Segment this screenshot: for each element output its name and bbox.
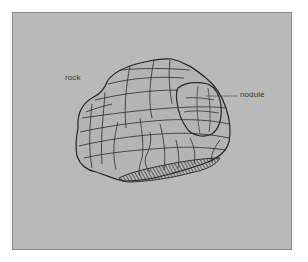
label-nodule: nodule [240, 90, 265, 99]
rock-illustration [0, 0, 308, 262]
label-rock: rock [65, 73, 81, 82]
